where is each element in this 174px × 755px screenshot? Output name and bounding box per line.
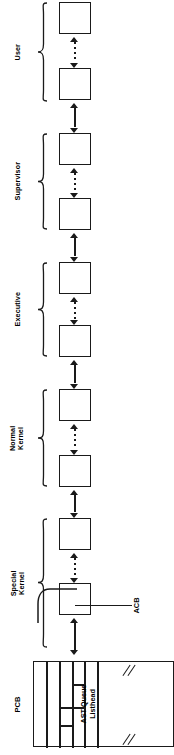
arrow-up-9 <box>70 553 78 558</box>
acb-box-special-kernel-2 <box>59 518 91 550</box>
group-label-special-kernel-text: Special Kernel <box>10 570 27 596</box>
pcb-label: PCB <box>2 661 32 747</box>
group-label-executive: Executive <box>0 262 36 357</box>
connector-dotted-7 <box>74 429 76 449</box>
group-label-user-text: User <box>14 44 22 60</box>
group-label-supervisor-text: Supervisor <box>14 162 22 201</box>
group-label-executive-text: Executive <box>14 292 22 326</box>
group-label-user: User <box>0 2 36 102</box>
connector-dotted-5 <box>74 302 76 319</box>
connector-dotted-9 <box>74 558 76 577</box>
group-label-supervisor: Supervisor <box>0 133 36 230</box>
arrow-up-4 <box>70 233 78 238</box>
acb-box-normal-kernel-1 <box>59 455 91 487</box>
connector-solid-8 <box>74 495 76 512</box>
acb-box-user-1 <box>59 68 91 100</box>
arrow-down-7 <box>70 450 78 455</box>
arrow-down-2 <box>70 128 78 133</box>
ast-queue-listhead-label: AST Queue Listhead <box>76 661 100 747</box>
connector-solid-6 <box>74 365 76 383</box>
arrow-up-2 <box>70 103 78 108</box>
pcb-block <box>33 661 174 747</box>
brace-special-kernel <box>37 518 48 648</box>
acb-leader-line <box>75 605 132 606</box>
brace-user <box>37 2 48 102</box>
arrow-down-1 <box>70 63 78 68</box>
arrow-down-4 <box>70 257 78 262</box>
arrow-down-3 <box>70 193 78 198</box>
arrow-up-6 <box>70 360 78 365</box>
brace-normal-kernel <box>37 389 48 487</box>
connector-dotted-3 <box>74 173 76 192</box>
acb-callout-label: ACB <box>128 584 170 626</box>
acb-box-executive-2 <box>59 262 91 294</box>
connector-solid-10 <box>74 623 76 645</box>
pcb-divider-2 <box>59 662 61 748</box>
arrow-up-7 <box>70 424 78 429</box>
pcb-label-text: PCB <box>12 696 21 712</box>
arrow-up-3 <box>70 168 78 173</box>
group-label-special-kernel: Special Kernel <box>0 518 36 648</box>
connector-solid-2 <box>74 108 76 127</box>
arrow-down-9 <box>70 578 78 583</box>
acb-box-supervisor-2 <box>59 133 91 165</box>
connector-solid-10b <box>74 645 76 651</box>
connector-dotted-1 <box>74 42 76 62</box>
arrow-up-1 <box>70 37 78 42</box>
arrow-down-5 <box>70 320 78 325</box>
group-label-normal-kernel: Normal Kernel <box>0 389 36 487</box>
pcb-slot-sep-3 <box>59 725 72 727</box>
acb-box-user-2 <box>59 2 91 34</box>
brace-executive <box>37 262 48 357</box>
ast-queue-diagram: User Supervisor Executive Normal Kernel … <box>0 0 174 755</box>
brace-supervisor <box>37 133 48 230</box>
pcb-divider-3 <box>72 662 74 748</box>
arrow-up-5 <box>70 297 78 302</box>
acb-callout-text: ACB <box>132 597 141 613</box>
arrow-down-8 <box>70 513 78 518</box>
group-label-normal-kernel-text: Normal Kernel <box>10 425 27 450</box>
arrow-down-6 <box>70 384 78 389</box>
acb-box-executive-1 <box>59 325 91 357</box>
connector-solid-4 <box>74 238 76 256</box>
pcb-divider-1 <box>46 662 48 748</box>
acb-box-normal-kernel-2 <box>59 389 91 421</box>
acb-box-supervisor-1 <box>59 198 91 230</box>
ast-queue-listhead-text: AST Queue Listhead <box>79 685 97 724</box>
arrow-up-8 <box>70 490 78 495</box>
